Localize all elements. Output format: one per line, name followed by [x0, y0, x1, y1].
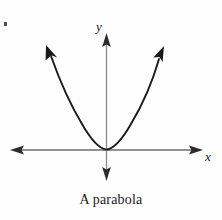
parabola-path: [51, 56, 159, 150]
y-axis: [102, 33, 111, 181]
parabola-graph: [0, 0, 222, 220]
parabola-figure: y x A parabola: [0, 0, 222, 220]
parabola-curve: [46, 45, 164, 150]
y-axis-label: y: [96, 20, 102, 33]
x-axis-label: x: [205, 150, 211, 163]
figure-caption: A parabola: [0, 192, 222, 208]
scan-artifact-speck: [4, 22, 7, 26]
